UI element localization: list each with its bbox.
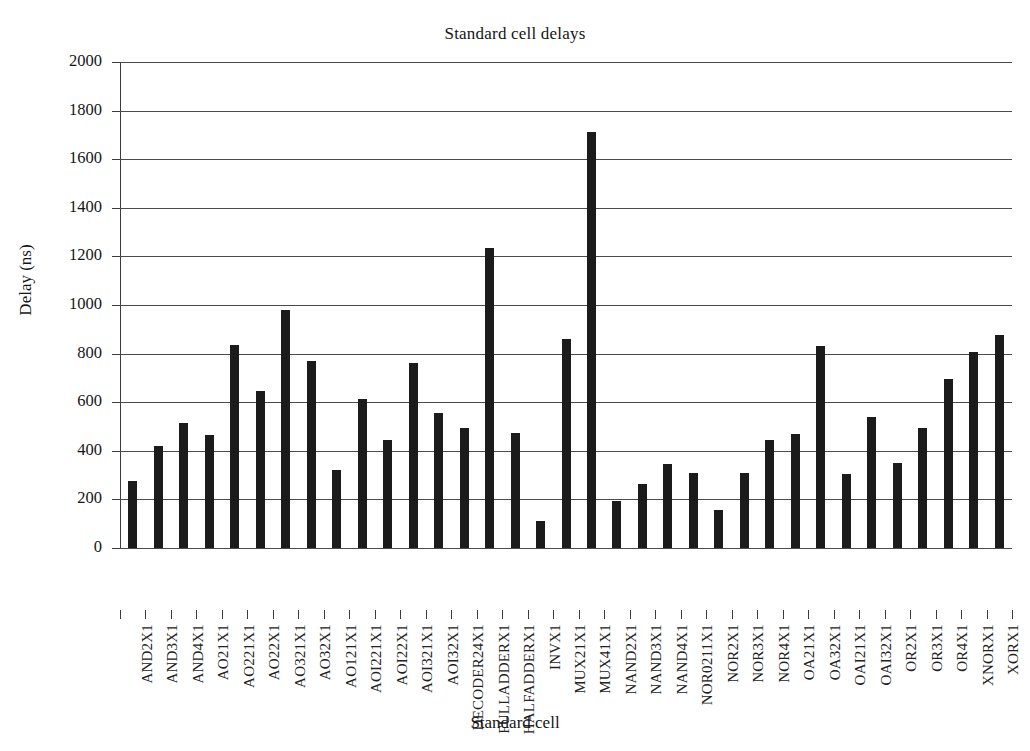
bar[interactable] — [281, 310, 290, 548]
x-tick-mark — [706, 610, 707, 619]
x-tick-mark — [426, 610, 427, 619]
x-tick-mark — [145, 610, 146, 619]
bar[interactable] — [612, 501, 621, 548]
bar[interactable] — [536, 521, 545, 548]
y-tick-mark — [112, 256, 120, 257]
x-tick-mark — [222, 610, 223, 619]
x-tick-mark — [859, 610, 860, 619]
x-tick-mark — [171, 610, 172, 619]
y-tick-label: 800 — [42, 345, 102, 362]
bar[interactable] — [358, 399, 367, 548]
y-axis-title-text: Delay (ns) — [16, 244, 36, 315]
x-tick-mark — [477, 610, 478, 619]
bar[interactable] — [918, 428, 927, 548]
chart-figure: Standard cell delays Delay (ns) 02004006… — [0, 0, 1030, 751]
chart-title: Standard cell delays — [0, 24, 1030, 44]
bar[interactable] — [383, 440, 392, 548]
x-tick-mark — [120, 610, 121, 619]
x-tick-mark — [298, 610, 299, 619]
bar[interactable] — [816, 346, 825, 548]
y-tick-mark — [112, 208, 120, 209]
x-tick-mark — [732, 610, 733, 619]
x-tick-mark — [655, 610, 656, 619]
gridline — [120, 111, 1012, 112]
bar[interactable] — [587, 132, 596, 548]
bar[interactable] — [128, 481, 137, 548]
y-tick-mark — [112, 305, 120, 306]
plot-area: 0200400600800100012001400160018002000 AN… — [120, 62, 1012, 548]
x-tick-mark — [273, 610, 274, 619]
y-tick-label: 1800 — [42, 102, 102, 119]
y-tick-mark — [112, 499, 120, 500]
x-tick-mark — [783, 610, 784, 619]
y-tick-label: 1400 — [42, 199, 102, 216]
bar[interactable] — [256, 391, 265, 548]
x-tick-mark — [349, 610, 350, 619]
x-tick-mark — [502, 610, 503, 619]
x-tick-mark — [196, 610, 197, 619]
x-tick-mark — [808, 610, 809, 619]
y-tick-label: 1600 — [42, 150, 102, 167]
y-tick-label: 2000 — [42, 53, 102, 70]
y-tick-label: 400 — [42, 442, 102, 459]
bar[interactable] — [740, 473, 749, 548]
y-tick-label: 600 — [42, 393, 102, 410]
x-axis-title: Standard cell — [0, 713, 1030, 733]
y-axis-title: Delay (ns) — [6, 0, 46, 560]
gridline — [120, 159, 1012, 160]
x-tick-mark — [324, 610, 325, 619]
x-tick-mark — [834, 610, 835, 619]
y-tick-label: 0 — [42, 539, 102, 556]
x-tick-mark — [604, 610, 605, 619]
y-tick-mark — [112, 62, 120, 63]
x-tick-mark — [375, 610, 376, 619]
x-tick-mark — [757, 610, 758, 619]
y-tick-label: 200 — [42, 490, 102, 507]
bar[interactable] — [714, 510, 723, 548]
gridline — [120, 548, 1012, 549]
gridline — [120, 256, 1012, 257]
y-tick-mark — [112, 354, 120, 355]
bar[interactable] — [867, 417, 876, 548]
x-tick-mark — [681, 610, 682, 619]
x-tick-mark — [247, 610, 248, 619]
y-tick-mark — [112, 111, 120, 112]
bar[interactable] — [944, 379, 953, 548]
gridline — [120, 305, 1012, 306]
bar[interactable] — [893, 463, 902, 548]
gridline — [120, 62, 1012, 63]
bar[interactable] — [179, 423, 188, 548]
bar[interactable] — [765, 440, 774, 548]
x-tick-mark — [451, 610, 452, 619]
bar[interactable] — [154, 446, 163, 548]
y-tick-mark — [112, 159, 120, 160]
y-tick-mark — [112, 451, 120, 452]
bar[interactable] — [995, 335, 1004, 548]
bar[interactable] — [689, 473, 698, 548]
x-tick-mark — [630, 610, 631, 619]
bar[interactable] — [969, 352, 978, 548]
x-tick-mark — [528, 610, 529, 619]
bar[interactable] — [562, 339, 571, 548]
bar[interactable] — [307, 361, 316, 548]
bar[interactable] — [663, 464, 672, 548]
y-tick-mark — [112, 548, 120, 549]
bar[interactable] — [638, 484, 647, 548]
bar[interactable] — [791, 434, 800, 548]
bar[interactable] — [434, 413, 443, 548]
x-tick-mark — [910, 610, 911, 619]
bar[interactable] — [332, 470, 341, 548]
x-tick-mark — [885, 610, 886, 619]
bar[interactable] — [205, 435, 214, 548]
bar[interactable] — [842, 474, 851, 548]
bar[interactable] — [409, 363, 418, 548]
bar[interactable] — [230, 345, 239, 548]
bar[interactable] — [485, 248, 494, 548]
gridline — [120, 208, 1012, 209]
y-tick-label: 1200 — [42, 247, 102, 264]
bar[interactable] — [460, 428, 469, 548]
x-tick-mark — [936, 610, 937, 619]
y-tick-mark — [112, 402, 120, 403]
bar[interactable] — [511, 433, 520, 548]
x-tick-mark — [579, 610, 580, 619]
